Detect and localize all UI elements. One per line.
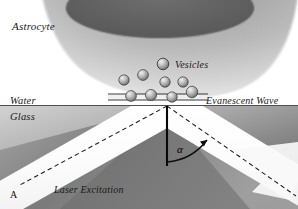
docked-vesicle xyxy=(186,86,198,98)
free-vesicle xyxy=(119,75,129,85)
free-vesicle xyxy=(160,77,170,87)
free-vesicle xyxy=(178,77,188,87)
free-vesicle xyxy=(157,58,169,70)
label-water: Water xyxy=(10,96,36,107)
panel-label-a: A xyxy=(10,189,17,200)
label-evanescent-wave: Evanescent Wave xyxy=(206,96,278,106)
docked-vesicle xyxy=(167,92,177,102)
label-astrocyte: Astrocyte xyxy=(12,21,55,32)
free-vesicle xyxy=(138,70,149,81)
tirf-microscopy-diagram: Astrocyte Vesicles Water Glass Evanescen… xyxy=(0,0,298,209)
label-vesicles: Vesicles xyxy=(175,60,208,70)
docked-vesicle xyxy=(126,91,137,102)
label-glass: Glass xyxy=(10,112,35,123)
label-laser-excitation: Laser Excitation xyxy=(54,185,124,195)
label-incident-angle-alpha: α xyxy=(177,143,183,155)
docked-vesicle xyxy=(145,89,156,100)
